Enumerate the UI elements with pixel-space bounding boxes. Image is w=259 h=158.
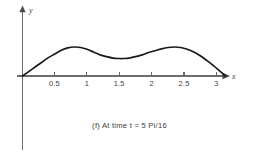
x-tick-label-2: 1.5 bbox=[114, 79, 125, 88]
x-tick-label-3: 2 bbox=[149, 79, 153, 88]
x-tick-label-4: 2.5 bbox=[179, 79, 190, 88]
figure-caption: (f) At time t = 5 Pi/16 bbox=[0, 121, 259, 130]
x-axis-label: x bbox=[231, 72, 236, 81]
wave-curve bbox=[23, 47, 226, 76]
y-axis-arrowhead bbox=[19, 6, 25, 13]
x-tick-label-1: 1 bbox=[85, 79, 89, 88]
y-axis-label: y bbox=[28, 6, 33, 15]
x-tick-label-5: 3 bbox=[214, 79, 218, 88]
x-tick-label-0: 0.5 bbox=[49, 79, 60, 88]
plot-area: 0.5 1 1.5 2 2.5 3 y x bbox=[0, 0, 259, 158]
figure-container: 0.5 1 1.5 2 2.5 3 y x (f) At time t = 5 … bbox=[0, 0, 259, 158]
